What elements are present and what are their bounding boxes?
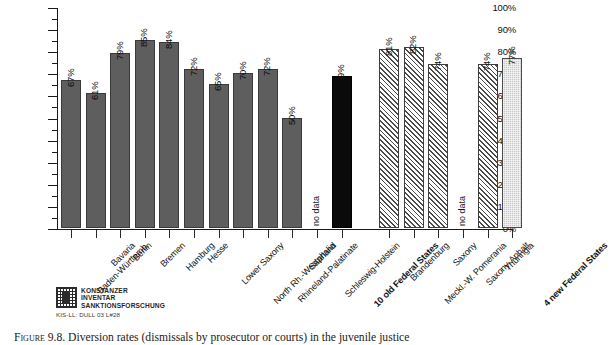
bar bbox=[61, 80, 81, 228]
kis-logo: KONSTANZER INVENTAR SANKTIONSFORSCHUNG K… bbox=[56, 287, 186, 327]
figure-caption-text: Diversion rates (dismissals by prosecuto… bbox=[68, 331, 409, 344]
bar bbox=[184, 69, 204, 228]
x-axis-tick-mark bbox=[219, 230, 220, 238]
bar bbox=[404, 47, 424, 228]
x-axis-tick-mark bbox=[488, 230, 489, 238]
bar-value-label: 81% bbox=[384, 38, 394, 56]
x-axis-tick-mark bbox=[292, 230, 293, 238]
bar-value-label: 72% bbox=[189, 57, 199, 75]
x-axis-tick-mark bbox=[194, 230, 195, 238]
x-axis-tick-mark bbox=[342, 230, 343, 238]
x-axis-tick-mark bbox=[145, 230, 146, 238]
kis-logo-mark-icon bbox=[56, 287, 77, 308]
bar bbox=[209, 84, 229, 228]
y-axis-tick-mark bbox=[48, 229, 57, 230]
bar-value-label: 85% bbox=[139, 29, 149, 47]
no-data-label: no data bbox=[312, 196, 321, 226]
y-axis-tick-mark bbox=[48, 163, 57, 164]
bar-value-label: 74% bbox=[433, 53, 443, 71]
bar-value-label: 84% bbox=[164, 31, 174, 49]
bar-value-label: 82% bbox=[408, 35, 418, 53]
kis-logo-reference: KIS-LL: DULL 03 L#28 bbox=[56, 311, 120, 318]
figure-caption-number: Figure 9.8. bbox=[14, 331, 65, 344]
x-axis-category-label: Berlin bbox=[132, 241, 154, 263]
y-axis-tick-mark bbox=[48, 119, 57, 120]
y-axis-tick-mark bbox=[48, 8, 57, 9]
kis-logo-line-3: SANKTIONSFORSCHUNG bbox=[81, 302, 165, 309]
bar-value-label: 77% bbox=[507, 46, 517, 64]
bar bbox=[135, 40, 155, 228]
x-axis-category-label: 4 new Federal States bbox=[542, 241, 610, 309]
kis-logo-line-2: INVENTAR bbox=[81, 294, 165, 301]
x-axis-tick-mark bbox=[169, 230, 170, 238]
x-axis-tick-mark bbox=[512, 230, 513, 238]
x-axis-tick-mark bbox=[438, 230, 439, 238]
bar-value-label: 67% bbox=[66, 69, 76, 87]
bar bbox=[258, 69, 278, 228]
y-axis-tick-mark bbox=[48, 52, 57, 53]
y-axis-tick-mark bbox=[48, 141, 57, 142]
kis-logo-line-1: KONSTANZER bbox=[81, 287, 165, 294]
y-axis-tick-mark bbox=[48, 185, 57, 186]
plot-area: 67%61%79%85%84%72%65%70%72%50%no data69%… bbox=[57, 8, 512, 228]
x-axis-tick-mark bbox=[243, 230, 244, 238]
bar-value-label: 61% bbox=[90, 82, 100, 100]
bar bbox=[379, 49, 399, 228]
x-axis-tick-mark bbox=[317, 230, 318, 238]
bar bbox=[332, 76, 352, 228]
y-axis-tick-mark bbox=[48, 74, 57, 75]
bar-value-label: 50% bbox=[287, 106, 297, 124]
kis-logo-text: KONSTANZER INVENTAR SANKTIONSFORSCHUNG bbox=[81, 287, 165, 309]
bar-value-label: 69% bbox=[336, 64, 346, 82]
y-axis-tick-mark bbox=[48, 96, 57, 97]
x-axis-tick-mark bbox=[414, 230, 415, 238]
bar bbox=[110, 53, 130, 228]
x-axis-tick-mark bbox=[463, 230, 464, 238]
bar-value-label: 74% bbox=[482, 53, 492, 71]
y-axis-tick-mark bbox=[48, 30, 57, 31]
x-axis-category-label: Lower Saxony bbox=[240, 241, 286, 287]
no-data-label: no data bbox=[458, 196, 467, 226]
figure-caption: Figure 9.8. Diversion rates (dismissals … bbox=[14, 331, 514, 344]
bar-value-label: 65% bbox=[213, 73, 223, 91]
x-axis-tick-mark bbox=[389, 230, 390, 238]
bar bbox=[478, 64, 498, 228]
bar bbox=[159, 42, 179, 228]
bar-value-label: 70% bbox=[238, 62, 248, 80]
bar-value-label: 79% bbox=[115, 42, 125, 60]
y-axis-tick-mark bbox=[48, 207, 57, 208]
bar bbox=[86, 93, 106, 228]
x-axis-tick-mark bbox=[71, 230, 72, 238]
bar bbox=[428, 64, 448, 228]
x-axis-tick-mark bbox=[268, 230, 269, 238]
bar-value-label: 72% bbox=[262, 57, 272, 75]
bar bbox=[502, 58, 522, 228]
bar bbox=[282, 118, 302, 229]
x-axis-tick-mark bbox=[96, 230, 97, 238]
x-axis-tick-mark bbox=[120, 230, 121, 238]
bar bbox=[233, 73, 253, 228]
